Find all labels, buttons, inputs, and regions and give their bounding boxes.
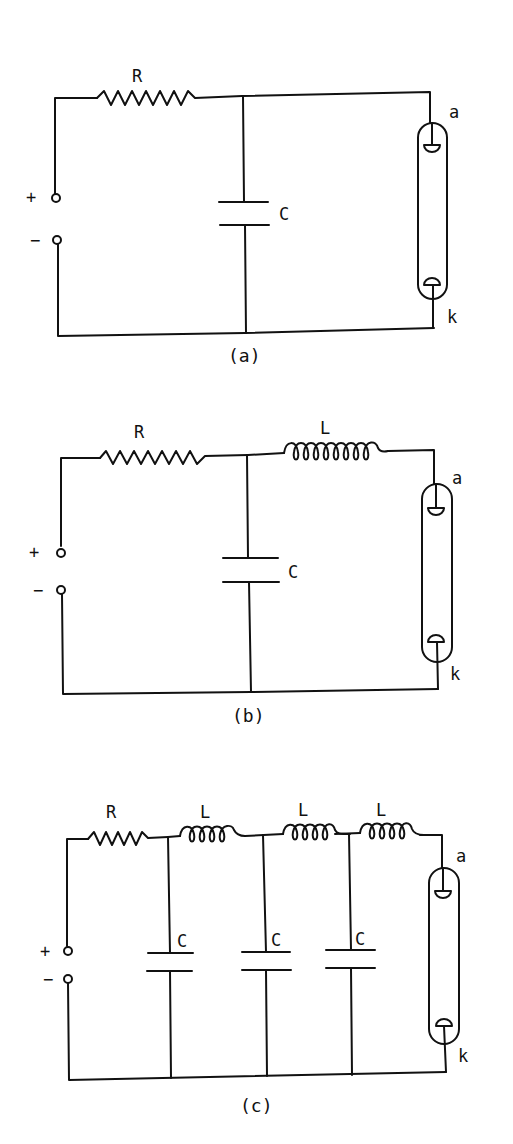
inductor-icon [284, 442, 388, 459]
caption-a: (a) [228, 345, 261, 366]
capacitor-label: C [271, 930, 281, 950]
wire [68, 983, 446, 1080]
inductor-label: L [298, 800, 308, 820]
positive-terminal-icon[interactable] [52, 194, 60, 202]
cathode-icon [424, 278, 440, 327]
capacitor-icon [219, 96, 269, 333]
negative-terminal-icon[interactable] [53, 236, 61, 244]
gas-tube-icon [418, 123, 447, 299]
minus-sign: − [43, 969, 53, 989]
gas-tube-icon [429, 868, 459, 1044]
inductor-icon [283, 824, 350, 839]
inductor-icon [360, 823, 424, 838]
cathode-label: k [447, 307, 457, 327]
wire [335, 833, 360, 834]
circuit-a: R C + − a k (a) [26, 66, 459, 366]
resistor-icon [88, 832, 168, 845]
inductor-label: L [200, 802, 210, 822]
minus-sign: − [30, 230, 40, 250]
anode-label: a [449, 102, 459, 122]
positive-terminal-icon[interactable] [64, 947, 72, 955]
capacitor-icon [147, 837, 193, 1078]
capacitor-icon [326, 834, 375, 1075]
inductor-label: L [320, 418, 330, 438]
wire [61, 458, 100, 546]
plus-sign: + [26, 187, 36, 207]
caption-c: (c) [240, 1095, 273, 1116]
resistor-label: R [132, 66, 143, 86]
wire [420, 835, 442, 868]
plus-sign: + [40, 941, 50, 961]
positive-terminal-icon[interactable] [57, 549, 65, 557]
caption-b: (b) [232, 705, 265, 726]
wire [251, 689, 438, 692]
resistor-label: R [134, 422, 145, 442]
wire [62, 594, 251, 694]
plus-sign: + [29, 542, 39, 562]
wire [168, 836, 180, 837]
anode-icon [428, 484, 444, 515]
wire [58, 244, 245, 336]
anode-label: a [452, 468, 462, 488]
cathode-label: k [458, 1046, 468, 1066]
cathode-label: k [450, 664, 460, 684]
wire [248, 453, 284, 455]
wire [55, 98, 97, 194]
negative-terminal-icon[interactable] [64, 975, 72, 983]
inductor-icon [180, 826, 245, 842]
minus-sign: − [33, 580, 43, 600]
inductor-label: L [376, 800, 386, 820]
wire [242, 92, 430, 123]
resistor-icon [100, 451, 248, 464]
capacitor-icon [242, 835, 291, 1076]
anode-label: a [456, 846, 466, 866]
negative-terminal-icon[interactable] [57, 586, 65, 594]
wire [388, 450, 434, 484]
capacitor-icon [223, 455, 279, 692]
wire [67, 839, 88, 946]
cathode-icon [436, 1019, 452, 1072]
capacitor-label: C [288, 562, 298, 582]
capacitor-label: C [177, 931, 187, 951]
resistor-icon [97, 91, 242, 105]
circuit-c: R L L L C C C + − a k (c) [40, 800, 468, 1116]
circuit-b: R L C + − a k (b) [29, 418, 462, 726]
capacitor-label: C [355, 929, 365, 949]
capacitor-label: C [279, 204, 289, 224]
wire [245, 328, 434, 333]
resistor-label: R [106, 802, 117, 822]
circuit-diagrams: R C + − a k (a) R L C + − [0, 0, 513, 1144]
anode-icon [424, 123, 440, 152]
anode-icon [435, 868, 451, 898]
